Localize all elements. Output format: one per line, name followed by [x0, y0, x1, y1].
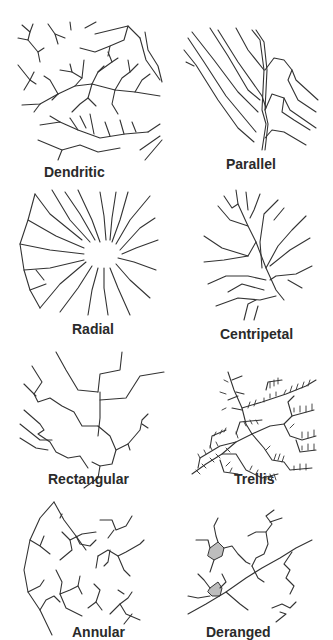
parallel-panel: Parallel: [166, 0, 333, 180]
parallel-label: Parallel: [226, 156, 276, 172]
dendritic-pattern-drawing: [0, 0, 166, 160]
centripetal-pattern-drawing: [166, 180, 333, 320]
annular-pattern-drawing: [0, 490, 166, 635]
annular-panel: Annular: [0, 490, 166, 635]
rectangular-panel: Rectangular: [0, 340, 166, 490]
deranged-label: Deranged: [206, 624, 271, 640]
centripetal-label: Centripetal: [220, 326, 293, 342]
trellis-tick-marks: [166, 350, 333, 490]
trellis-label: Trellis: [234, 471, 274, 487]
rectangular-pattern-drawing: [0, 340, 166, 490]
radial-pattern-drawing: [0, 180, 166, 320]
radial-panel: Radial: [0, 180, 166, 320]
deranged-panel: Deranged: [166, 490, 333, 635]
deranged-pattern-drawing: [166, 490, 333, 635]
rectangular-label: Rectangular: [48, 471, 129, 487]
dendritic-panel: Dendritic: [0, 0, 166, 180]
radial-label: Radial: [72, 321, 114, 337]
centripetal-panel: Centripetal: [166, 180, 333, 320]
dendritic-label: Dendritic: [44, 164, 105, 180]
trellis-panel: Trellis: [166, 350, 333, 490]
parallel-pattern-drawing: [166, 0, 333, 160]
annular-label: Annular: [72, 624, 125, 640]
